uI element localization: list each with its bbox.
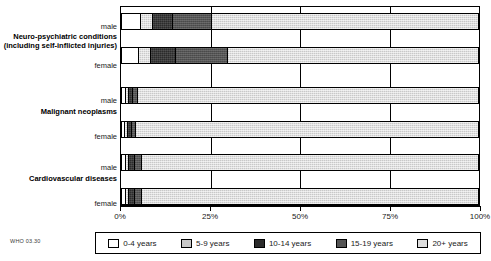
legend-label: 10-14 years xyxy=(269,239,311,248)
group-label-line-1: Neuro-psychiatric conditions xyxy=(0,32,117,41)
bar-segment-0-4-years xyxy=(122,14,140,29)
sex-label: male xyxy=(101,163,117,172)
group-label-line-2: (including self-inflicted injuries) xyxy=(0,41,117,50)
bar-label-np-male: male xyxy=(0,15,117,33)
bar-segment-10-14-years xyxy=(150,48,175,63)
bar-segment-15-19-years xyxy=(172,14,211,29)
group-label-line-1: Cardiovascular diseases xyxy=(0,174,117,183)
sex-label: female xyxy=(94,132,117,141)
bar-cardiovascular-female xyxy=(121,188,479,205)
x-tick-0 xyxy=(120,206,121,211)
bar-neuro-psychiatric-female xyxy=(121,47,479,64)
bar-segment-5-9-years xyxy=(140,14,152,29)
gridline-50 xyxy=(300,7,301,205)
bar-label-np-female: female xyxy=(0,54,117,72)
bar-label-mn-male: male xyxy=(0,89,117,107)
source-note: WHO 03.30 xyxy=(10,238,41,244)
legend-label: 20+ years xyxy=(432,239,467,248)
bar-segment-15-19-years xyxy=(134,189,141,204)
bar-segment-20-years xyxy=(211,14,478,29)
gridline-25 xyxy=(211,7,212,205)
plot-area xyxy=(120,6,480,206)
group-label-malignant-neoplasms: Malignant neoplasms xyxy=(0,107,117,116)
sex-label: female xyxy=(94,199,117,208)
bar-segment-20-years xyxy=(227,48,478,63)
sex-label: female xyxy=(94,61,117,70)
gridline-75 xyxy=(390,7,391,205)
sex-label: male xyxy=(101,22,117,31)
x-tick-label-25: 25% xyxy=(202,212,218,221)
legend-swatch-icon xyxy=(417,239,428,248)
bar-segment-20-years xyxy=(141,155,478,170)
legend-item-5-9-years[interactable]: 5-9 years xyxy=(181,239,229,248)
chart-container: male Neuro-psychiatric conditions (inclu… xyxy=(0,0,491,261)
legend-swatch-icon xyxy=(254,239,265,248)
legend-swatch-icon xyxy=(336,239,347,248)
group-label-neuro-psychiatric: Neuro-psychiatric conditions (including … xyxy=(0,32,117,50)
legend-label: 15-19 years xyxy=(351,239,393,248)
bar-segment-20-years xyxy=(141,189,478,204)
x-tick-label-100: 100% xyxy=(470,212,490,221)
category-axis-labels: male Neuro-psychiatric conditions (inclu… xyxy=(0,6,117,206)
bar-neuro-psychiatric-male xyxy=(121,13,479,30)
legend-label: 0-4 years xyxy=(123,239,156,248)
legend-swatch-icon xyxy=(181,239,192,248)
legend-item-0-4-years[interactable]: 0-4 years xyxy=(108,239,156,248)
x-tick-100 xyxy=(480,206,481,211)
x-tick-label-75: 75% xyxy=(382,212,398,221)
bar-segment-10-14-years xyxy=(152,14,172,29)
bar-label-cvd-female: female xyxy=(0,192,117,210)
bar-segment-15-19-years xyxy=(175,48,227,63)
bar-malignant-female xyxy=(121,121,479,138)
bar-label-cvd-male: male xyxy=(0,156,117,174)
bar-segment-5-9-years xyxy=(138,48,150,63)
x-tick-label-50: 50% xyxy=(292,212,308,221)
legend-swatch-icon xyxy=(108,239,119,248)
legend-item-20-years[interactable]: 20+ years xyxy=(417,239,467,248)
group-label-line-1: Malignant neoplasms xyxy=(0,107,117,116)
bar-malignant-male xyxy=(121,87,479,104)
bar-label-mn-female: female xyxy=(0,125,117,143)
x-tick-75 xyxy=(390,206,391,211)
x-tick-25 xyxy=(210,206,211,211)
bar-cardiovascular-male xyxy=(121,154,479,171)
bar-segment-15-19-years xyxy=(134,155,141,170)
legend-label: 5-9 years xyxy=(196,239,229,248)
sex-label: male xyxy=(101,96,117,105)
bar-segment-20-years xyxy=(135,122,478,137)
legend-item-15-19-years[interactable]: 15-19 years xyxy=(336,239,393,248)
x-tick-label-0: 0% xyxy=(114,212,126,221)
chart-legend: 0-4 years5-9 years10-14 years15-19 years… xyxy=(95,232,481,254)
bar-segment-20-years xyxy=(137,88,478,103)
legend-item-10-14-years[interactable]: 10-14 years xyxy=(254,239,311,248)
x-tick-50 xyxy=(300,206,301,211)
group-label-cardiovascular-diseases: Cardiovascular diseases xyxy=(0,174,117,183)
bar-segment-0-4-years xyxy=(122,48,138,63)
